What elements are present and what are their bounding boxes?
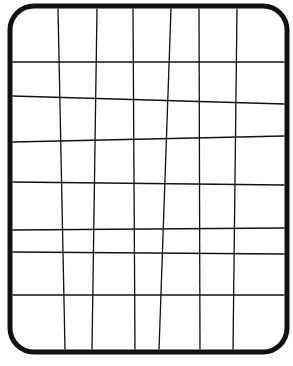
distorted-grid-diagram xyxy=(0,0,293,366)
vertical-grid-line-5 xyxy=(199,9,200,350)
horizontal-grid-line-3 xyxy=(13,136,285,142)
vertical-grid-line-6 xyxy=(233,9,237,350)
grid-lines xyxy=(13,9,285,350)
horizontal-grid-line-2 xyxy=(13,96,285,104)
horizontal-grid-line-4 xyxy=(13,182,285,185)
vertical-grid-line-2 xyxy=(92,9,97,350)
vertical-grid-line-4 xyxy=(159,9,171,350)
rounded-frame xyxy=(10,6,287,352)
horizontal-grid-line-5 xyxy=(13,228,285,230)
vertical-grid-line-3 xyxy=(133,9,135,350)
horizontal-grid-line-6 xyxy=(13,252,285,254)
vertical-grid-line-1 xyxy=(58,9,65,350)
